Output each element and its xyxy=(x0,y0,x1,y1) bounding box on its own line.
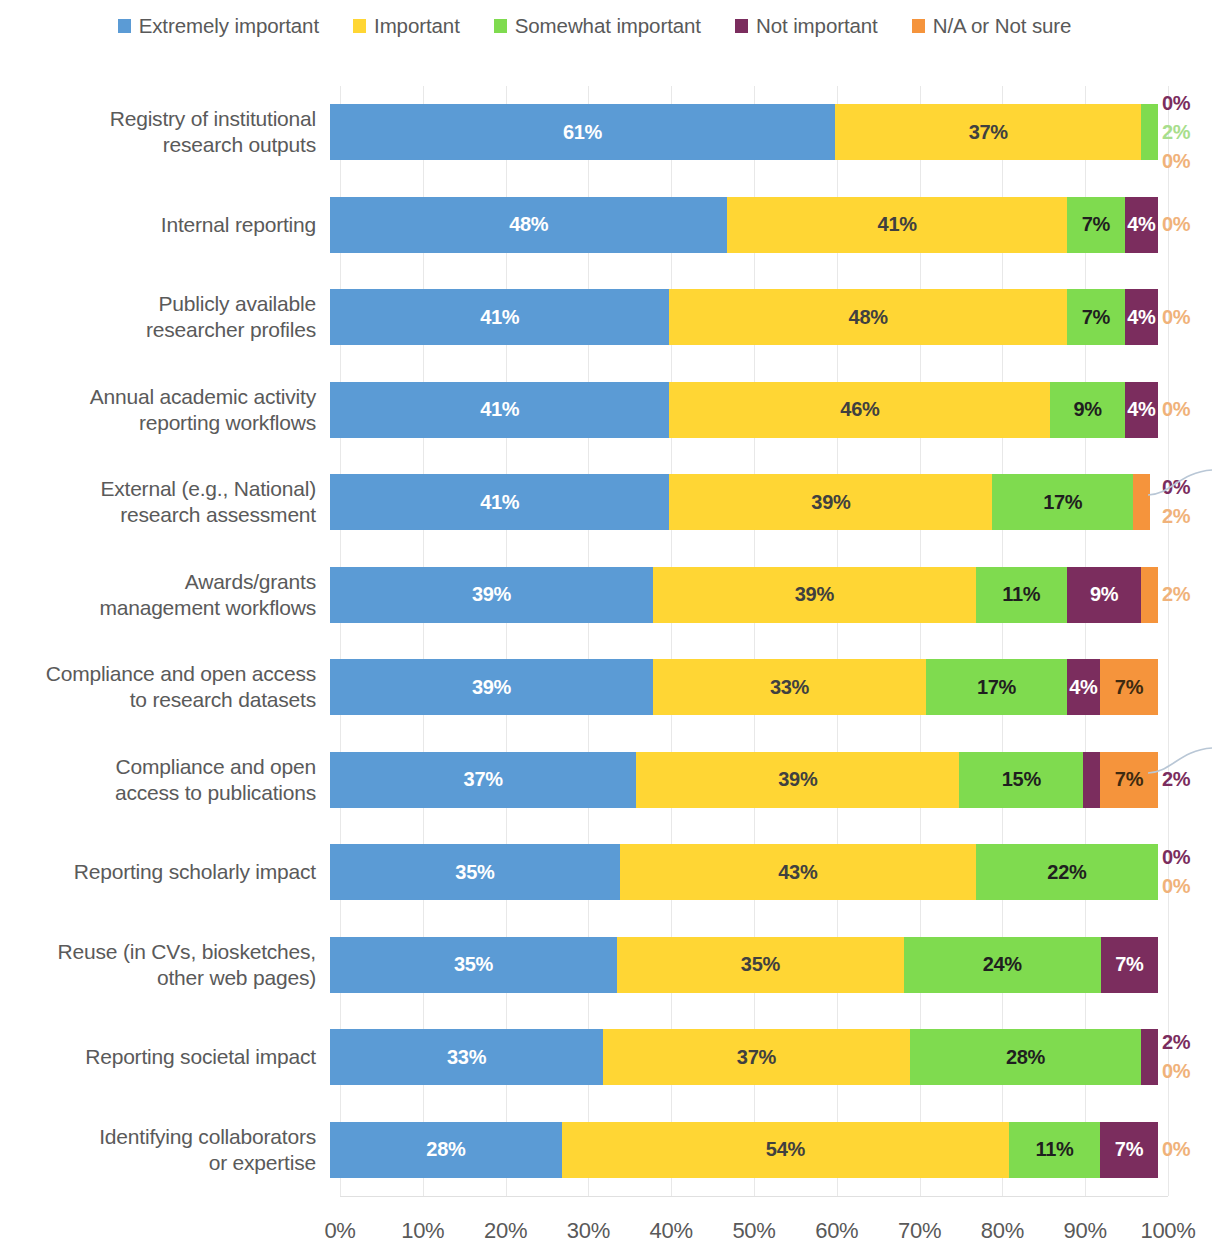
category-label-line: other web pages) xyxy=(0,965,316,991)
bar-segment[interactable]: 46% xyxy=(669,382,1050,438)
bar-segment[interactable]: 39% xyxy=(669,474,992,530)
legend-swatch-icon xyxy=(494,19,507,33)
outside-value-label: 2% xyxy=(1162,118,1190,147)
bar-segment[interactable] xyxy=(1133,474,1150,530)
stacked-bar[interactable]: 28%54%11%7% xyxy=(330,1122,1158,1178)
bar-segment[interactable]: 37% xyxy=(603,1029,909,1085)
bar-segment[interactable]: 7% xyxy=(1100,659,1158,715)
stacked-bar[interactable]: 39%39%11%9% xyxy=(330,567,1158,623)
stacked-bar[interactable]: 61%37% xyxy=(330,104,1158,160)
bar-segment[interactable]: 9% xyxy=(1050,382,1125,438)
bar-segment[interactable]: 33% xyxy=(330,1029,603,1085)
bar-segment[interactable]: 7% xyxy=(1101,937,1158,993)
bar-segment[interactable]: 7% xyxy=(1067,289,1125,345)
bar-segment-value: 37% xyxy=(464,768,503,791)
bar-segment[interactable]: 28% xyxy=(330,1122,562,1178)
bar-segment[interactable]: 22% xyxy=(976,844,1158,900)
bar-segment[interactable]: 48% xyxy=(669,289,1066,345)
bar-segment[interactable]: 4% xyxy=(1067,659,1100,715)
bar-segment-value: 7% xyxy=(1115,768,1143,791)
x-axis-tick-label: 80% xyxy=(981,1218,1024,1244)
legend-item[interactable]: Not important xyxy=(735,14,878,38)
bar-area: 61%37%0%2%0% xyxy=(330,86,1158,179)
legend-item[interactable]: N/A or Not sure xyxy=(912,14,1072,38)
bar-segment[interactable]: 4% xyxy=(1125,382,1158,438)
category-label: Reporting societal impact xyxy=(0,1044,330,1070)
category-label-line: access to publications xyxy=(0,780,316,806)
bar-segment[interactable]: 35% xyxy=(330,844,620,900)
legend-item[interactable]: Important xyxy=(353,14,460,38)
category-label: Publicly availableresearcher profiles xyxy=(0,291,330,343)
bar-segment[interactable]: 15% xyxy=(959,752,1083,808)
bar-segment[interactable]: 41% xyxy=(330,474,669,530)
bar-segment-value: 46% xyxy=(840,398,879,421)
bar-segment[interactable]: 37% xyxy=(330,752,636,808)
bar-segment[interactable]: 35% xyxy=(330,937,617,993)
bar-segment[interactable]: 11% xyxy=(976,567,1067,623)
bar-area: 48%41%7%4%0% xyxy=(330,179,1158,272)
bar-segment[interactable]: 39% xyxy=(636,752,959,808)
bar-segment[interactable]: 39% xyxy=(330,659,653,715)
outside-value-label: 0% xyxy=(1162,473,1190,502)
bar-segment[interactable]: 48% xyxy=(330,197,727,253)
bar-segment[interactable]: 9% xyxy=(1067,567,1142,623)
bar-segment[interactable] xyxy=(1083,752,1100,808)
category-label: Internal reporting xyxy=(0,212,330,238)
bar-area: 39%33%17%4%7% xyxy=(330,641,1158,734)
bar-segment[interactable]: 4% xyxy=(1125,289,1158,345)
bar-segment[interactable]: 41% xyxy=(727,197,1066,253)
outside-value-label: 2% xyxy=(1162,1028,1190,1057)
bar-segment[interactable]: 37% xyxy=(835,104,1141,160)
category-label-line: Awards/grants xyxy=(0,569,316,595)
bar-segment[interactable]: 39% xyxy=(330,567,653,623)
bar-segment[interactable]: 11% xyxy=(1009,1122,1100,1178)
bar-segment[interactable]: 35% xyxy=(617,937,904,993)
x-axis-tick-label: 50% xyxy=(732,1218,775,1244)
stacked-bar[interactable]: 35%43%22% xyxy=(330,844,1158,900)
bar-segment-value: 39% xyxy=(778,768,817,791)
stacked-bar[interactable]: 41%39%17% xyxy=(330,474,1158,530)
bar-segment[interactable]: 33% xyxy=(653,659,926,715)
bar-segment[interactable] xyxy=(1141,567,1158,623)
bar-segment[interactable]: 4% xyxy=(1125,197,1158,253)
bar-segment[interactable]: 43% xyxy=(620,844,976,900)
bar-segment[interactable]: 41% xyxy=(330,289,669,345)
bar-segment-value: 39% xyxy=(472,583,511,606)
bar-segment[interactable]: 24% xyxy=(904,937,1101,993)
stacked-bar[interactable]: 41%46%9%4% xyxy=(330,382,1158,438)
legend-item[interactable]: Somewhat important xyxy=(494,14,701,38)
legend-swatch-icon xyxy=(735,19,748,33)
bar-area: 28%54%11%7%0% xyxy=(330,1104,1158,1197)
stacked-bar[interactable]: 41%48%7%4% xyxy=(330,289,1158,345)
category-label-line: Internal reporting xyxy=(0,212,316,238)
bar-segment[interactable] xyxy=(1141,1029,1158,1085)
bar-segment[interactable]: 7% xyxy=(1067,197,1125,253)
outside-value-label: 2% xyxy=(1162,765,1190,794)
bar-segment[interactable]: 7% xyxy=(1100,1122,1158,1178)
bar-segment-value: 43% xyxy=(778,861,817,884)
stacked-bar[interactable]: 39%33%17%4%7% xyxy=(330,659,1158,715)
stacked-bar[interactable]: 37%39%15%7% xyxy=(330,752,1158,808)
bar-segment[interactable]: 17% xyxy=(992,474,1133,530)
bar-segment[interactable] xyxy=(1141,104,1158,160)
stacked-bar[interactable]: 48%41%7%4% xyxy=(330,197,1158,253)
bar-segment[interactable]: 39% xyxy=(653,567,976,623)
bar-segment[interactable]: 54% xyxy=(562,1122,1009,1178)
outside-label-group: 2% xyxy=(1162,549,1216,642)
bar-segment[interactable]: 17% xyxy=(926,659,1067,715)
bar-segment[interactable]: 61% xyxy=(330,104,835,160)
category-label-line: Reuse (in CVs, biosketches, xyxy=(0,939,316,965)
bar-segment[interactable]: 28% xyxy=(910,1029,1142,1085)
bar-segment[interactable]: 41% xyxy=(330,382,669,438)
bar-segment-value: 9% xyxy=(1090,583,1118,606)
chart-row: External (e.g., National)research assess… xyxy=(0,456,1189,549)
legend-label: N/A or Not sure xyxy=(933,14,1072,38)
chart-row: Compliance and openaccess to publication… xyxy=(0,734,1189,827)
bar-segment[interactable]: 7% xyxy=(1100,752,1158,808)
legend-item[interactable]: Extremely important xyxy=(118,14,319,38)
x-axis-tick-label: 60% xyxy=(815,1218,858,1244)
chart-row: Awards/grantsmanagement workflows39%39%1… xyxy=(0,549,1189,642)
bar-segment-value: 41% xyxy=(480,306,519,329)
stacked-bar[interactable]: 35%35%24%7% xyxy=(330,937,1158,993)
stacked-bar[interactable]: 33%37%28% xyxy=(330,1029,1158,1085)
